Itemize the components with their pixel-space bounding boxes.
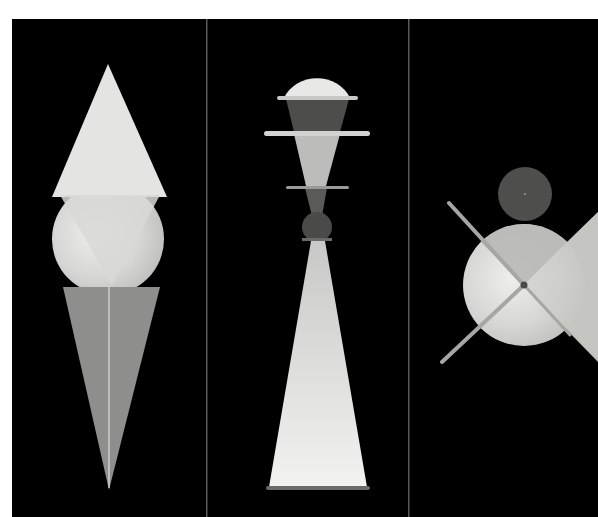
panel-3-dark-circle-dot xyxy=(524,193,526,195)
panel-divider-1 xyxy=(206,19,208,517)
panel-3-center-dot xyxy=(521,282,528,289)
panel-2-ball xyxy=(302,212,332,242)
artwork-canvas xyxy=(0,0,598,517)
panel-2-ring-3 xyxy=(286,186,349,189)
panel-2-upper-dark-cone xyxy=(286,99,349,132)
panel-2-base-bar xyxy=(266,486,370,490)
panel-divider-2 xyxy=(408,19,410,517)
panel-2-ring-2 xyxy=(264,131,370,136)
panel-2-ring-1 xyxy=(277,96,358,100)
panel-2-ring-4 xyxy=(302,238,332,241)
